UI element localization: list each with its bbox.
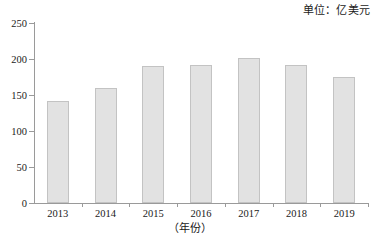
plot-area: 050100150200250 [34, 23, 368, 203]
x-tick-mark [320, 203, 321, 207]
unit-caption: 单位：亿美元 [303, 3, 370, 17]
bar-chart: 单位：亿美元 050100150200250 20132014201520162… [0, 0, 380, 239]
bar-2015 [142, 66, 164, 203]
x-tick-label-2015: 2015 [143, 207, 164, 220]
y-tick-label: 50 [17, 162, 28, 173]
x-tick-mark [82, 203, 83, 207]
x-tick-mark [273, 203, 274, 207]
bar-2018 [285, 65, 307, 203]
x-tick-mark [177, 203, 178, 207]
x-tick-mark [368, 203, 369, 207]
y-tick-mark [29, 23, 34, 24]
y-tick-label: 0 [22, 198, 27, 209]
x-tick-mark [129, 203, 130, 207]
y-tick-label: 100 [11, 126, 27, 137]
y-tick-label: 250 [11, 18, 27, 29]
y-tick-mark [29, 203, 34, 204]
x-tick-label-2018: 2018 [286, 207, 307, 220]
bar-2016 [190, 65, 212, 203]
bar-2013 [47, 101, 69, 203]
y-tick-mark [29, 95, 34, 96]
x-axis-title: （年份） [0, 221, 380, 235]
bar-2019 [333, 77, 355, 203]
bar-2017 [238, 58, 260, 203]
x-tick-label-2019: 2019 [334, 207, 355, 220]
x-tick-label-2016: 2016 [191, 207, 212, 220]
y-tick-label: 150 [11, 90, 27, 101]
x-tick-mark [225, 203, 226, 207]
x-tick-label-2013: 2013 [47, 207, 68, 220]
x-axis-line [34, 203, 369, 204]
y-tick-label: 200 [11, 54, 27, 65]
y-tick-mark [29, 131, 34, 132]
x-tick-label-2014: 2014 [95, 207, 116, 220]
bar-2014 [95, 88, 117, 203]
y-tick-mark [29, 59, 34, 60]
y-tick-mark [29, 167, 34, 168]
x-tick-label-2017: 2017 [238, 207, 259, 220]
